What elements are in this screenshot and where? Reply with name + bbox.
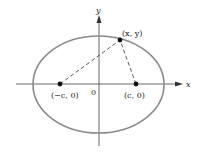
ellipse-diagram: y x 0 (x, y) (−c, 0) (c, 0): [0, 0, 200, 152]
y-axis: [97, 15, 102, 146]
dashed-line-left: [60, 40, 120, 84]
y-axis-arrow-icon: [97, 15, 102, 23]
x-axis-label: x: [186, 80, 191, 89]
point-label: (x, y): [122, 29, 142, 38]
right-focus-label: (c, 0): [124, 91, 145, 100]
ellipse-point: [118, 38, 123, 43]
left-focus-label: (−c, 0): [51, 91, 79, 100]
ellipse: [33, 36, 164, 133]
x-axis-arrow-icon: [175, 82, 183, 87]
left-focus-point: [58, 82, 63, 87]
x-axis: [16, 82, 183, 87]
y-axis-label: y: [95, 6, 101, 15]
origin-label: 0: [91, 88, 96, 97]
dashed-line-right: [120, 40, 136, 84]
right-focus-point: [134, 82, 139, 87]
